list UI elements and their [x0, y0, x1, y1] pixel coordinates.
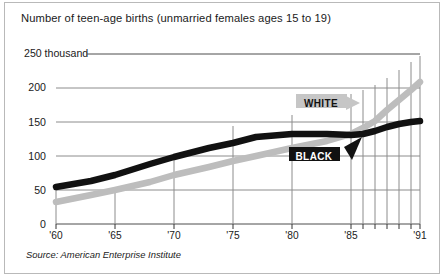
x-tick-label-70: '70 [154, 230, 194, 241]
source-note: Source: American Enterprise Institute [26, 249, 181, 260]
x-tick-label-91: '91 [400, 230, 440, 241]
callout-white-label: WHITE [304, 98, 338, 109]
x-axis-ticks [56, 224, 420, 229]
x-tick-label-60: '60 [36, 230, 76, 241]
callout-white: WHITE [296, 94, 360, 110]
x-tick-label-85: '85 [331, 230, 371, 241]
x-tick-label-80: '80 [272, 230, 312, 241]
callout-black-label: BLACK [296, 151, 333, 162]
x-tick-label-75: '75 [213, 230, 253, 241]
chart-figure: Number of teen-age births (unmarried fem… [0, 0, 444, 278]
x-tick-label-65: '65 [95, 230, 135, 241]
series-line-black [56, 121, 420, 187]
